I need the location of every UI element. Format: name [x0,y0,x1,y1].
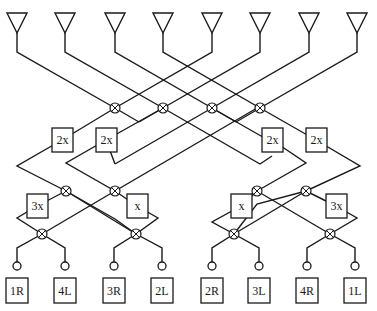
phase-shifter-label: 2x [311,133,323,147]
beam-port-3r: 3R [103,262,125,303]
antenna-triangle [153,13,173,33]
port-label: 4R [300,284,314,298]
phase-shifter-box: x [231,194,252,218]
hybrid-coupler-icon [110,103,120,113]
antenna-icon [299,13,319,33]
phase-shifter-box: 3x [326,194,347,218]
transmission-line [330,234,355,262]
port-label: 4L [58,284,71,298]
hybrid-coupler-icon [37,229,47,239]
antenna-triangle [347,13,367,33]
port-terminal-icon [61,262,69,270]
beam-port-3l: 3L [248,262,270,303]
antenna-icon [55,13,75,33]
transmission-line [236,33,357,122]
phase-shifter-label: 2x [101,133,113,147]
beam-ports: 1R4L3R2L2R3L4R1L [6,262,366,303]
port-label: 1R [10,284,24,298]
port-label: 3R [107,284,121,298]
phase-shifter-box: 2x [262,128,283,152]
antenna-triangle [202,13,222,33]
antenna-icon [347,13,367,33]
antenna-triangle [7,13,27,33]
beam-port-1r: 1R [6,262,28,303]
hybrid-coupler-icon [325,229,335,239]
beam-port-2r: 2R [201,262,223,303]
hybrid-coupler-icon [301,186,311,196]
beam-port-4r: 4R [296,262,318,303]
port-label: 2L [155,284,168,298]
beam-port-4l: 4L [54,262,76,303]
phase-shifter-label: x [239,199,245,213]
antenna-triangle [55,13,75,33]
hybrid-coupler-icon [229,229,239,239]
antenna-icon [250,13,270,33]
port-terminal-icon [158,262,166,270]
port-terminal-icon [255,262,263,270]
antenna-triangle [105,13,125,33]
port-label: 1L [348,284,361,298]
phase-shifter-label: x [135,199,141,213]
port-label: 3L [252,284,265,298]
phase-shifter-box: x [127,194,148,218]
port-terminal-icon [351,262,359,270]
transmission-line [234,140,360,234]
butler-matrix-diagram: 2x2x2x2x3xxx3x 1R4L3R2L2R3L4R1L [0,0,377,311]
transmission-line [17,33,139,122]
transmission-line [234,234,259,262]
antenna-icon [153,13,173,33]
hybrid-coupler-icon [255,103,265,113]
port-terminal-icon [208,262,216,270]
hybrid-coupler-icon [61,186,71,196]
phase-shifters: 2x2x2x2x3xxx3x [27,128,347,218]
phase-shifter-label: 2x [267,133,279,147]
antenna-icon [202,13,222,33]
port-terminal-icon [110,262,118,270]
port-label: 2R [205,284,219,298]
phase-shifter-box: 2x [52,128,73,152]
antenna-array [7,13,367,33]
hybrid-coupler-icon [110,186,120,196]
transmission-line [136,234,162,262]
phase-shifter-label: 3x [331,199,343,213]
hybrid-coupler-icon [252,186,262,196]
hybrid-coupler-icon [158,103,168,113]
phase-shifter-box: 2x [96,128,117,152]
phase-shifter-label: 3x [32,199,44,213]
phase-shifter-label: 2x [57,133,69,147]
antenna-triangle [299,13,319,33]
antenna-icon [105,13,125,33]
port-terminal-icon [303,262,311,270]
transmission-line [17,234,42,262]
diagram-canvas: 2x2x2x2x3xxx3x 1R4L3R2L2R3L4R1L [0,0,377,311]
antenna-icon [7,13,27,33]
antenna-triangle [250,13,270,33]
hybrid-coupler-icon [207,103,217,113]
beam-port-2l: 2L [151,262,173,303]
beam-port-1l: 1L [344,262,366,303]
phase-shifter-box: 2x [306,128,327,152]
port-terminal-icon [13,262,21,270]
hybrid-coupler-icon [131,229,141,239]
phase-shifter-box: 3x [27,194,48,218]
